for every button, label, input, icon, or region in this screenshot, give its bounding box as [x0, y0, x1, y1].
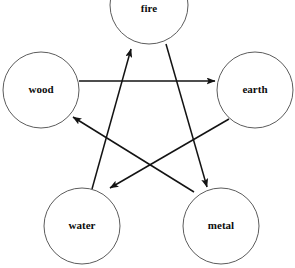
edge-fire-to-metal: [166, 44, 207, 187]
node-label-earth: earth: [242, 83, 267, 95]
nodes-group: fire wood earth water metal: [3, 0, 293, 264]
node-earth: earth: [217, 52, 293, 128]
node-label-water: water: [69, 219, 96, 231]
edges-group: [73, 44, 229, 192]
node-fire: fire: [110, 0, 188, 44]
edge-metal-to-wood: [73, 117, 194, 192]
node-metal: metal: [183, 188, 259, 264]
wu-xing-diagram: fire wood earth water metal: [0, 0, 295, 268]
node-water: water: [44, 188, 120, 264]
node-label-metal: metal: [208, 219, 234, 231]
wu-xing-svg-canvas: fire wood earth water metal: [0, 0, 295, 268]
node-label-wood: wood: [28, 83, 53, 95]
edge-water-to-fire: [92, 49, 131, 189]
node-label-fire: fire: [141, 2, 157, 14]
node-wood: wood: [3, 52, 79, 128]
